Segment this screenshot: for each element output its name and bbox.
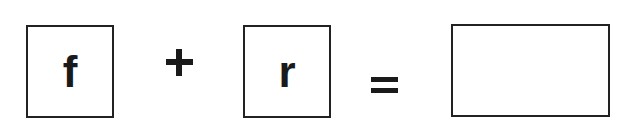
operand-box-1: f bbox=[26, 25, 114, 118]
plus-icon bbox=[166, 49, 193, 76]
equals-icon bbox=[371, 77, 398, 95]
operand-letter-f: f bbox=[63, 50, 78, 94]
result-box[interactable] bbox=[451, 24, 610, 117]
operand-box-2: r bbox=[243, 25, 331, 118]
operand-letter-r: r bbox=[278, 50, 295, 94]
